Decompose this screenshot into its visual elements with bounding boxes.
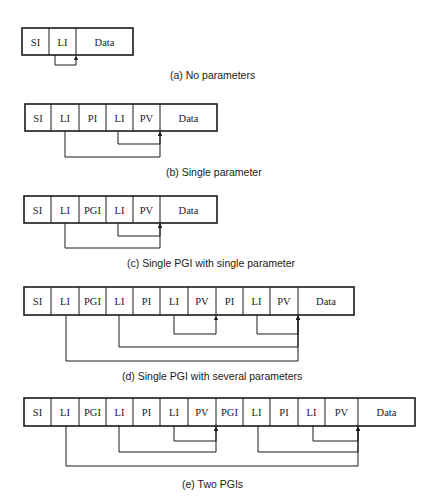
field-pv: PV [335,407,349,418]
field-pgi: PGI [84,407,101,418]
diagram-d: SILIPGILIPILIPVPILIPVData(d) Single PGI … [24,287,354,382]
length-pointer-line [174,426,216,441]
field-pv: PV [140,205,154,216]
field-data: Data [179,205,199,216]
field-li: LI [252,407,262,418]
caption-c: (c) Single PGI with single parameter [127,257,296,269]
field-data: Data [316,296,336,307]
field-pi: PI [88,113,98,124]
field-data: Data [179,113,199,124]
length-pointer-line [119,315,298,347]
field-pgi: PGI [221,407,238,418]
field-pi: PI [279,407,289,418]
field-li: LI [60,113,70,124]
field-si: SI [33,407,43,418]
length-pointer-line [118,131,160,144]
field-li: LI [307,407,317,418]
field-li: LI [58,37,68,48]
field-data: Data [377,407,397,418]
pdu-structure-figure: 266 CHAPTER 6 SILIData(a) No parametersS… [0,0,437,504]
field-pi: PI [142,407,152,418]
field-li: LI [115,407,125,418]
field-li: LI [115,113,125,124]
field-li: LI [60,407,70,418]
length-pointer-line [313,426,358,441]
field-li: LI [169,296,179,307]
field-pv: PV [195,296,209,307]
field-si: SI [33,205,43,216]
length-pointer-line [66,315,298,361]
field-pv: PV [277,296,291,307]
length-pointer-line [55,55,76,65]
frame-box [24,287,354,315]
field-pgi: PGI [84,296,101,307]
length-pointer-line [257,315,298,334]
diagram-c: SILIPGILIPVData(c) Single PGI with singl… [24,196,296,269]
caption-e: (e) Two PGIs [182,478,243,490]
field-pv: PV [195,407,209,418]
diagram-a: SILIData(a) No parameters [22,28,255,81]
length-pointer-line [119,426,216,452]
field-li: LI [169,407,179,418]
field-li: LI [60,296,70,307]
length-pointer-line [66,426,358,466]
length-pointer-line [118,223,160,236]
length-pointer-line [174,315,216,334]
field-pi: PI [225,296,235,307]
page-header: 266 CHAPTER 6 [4,0,80,1]
field-si: SI [31,37,41,48]
frame-box [24,398,415,426]
field-li: LI [115,205,125,216]
field-si: SI [33,113,43,124]
diagram-b: SILIPILIPVData(b) Single parameter [25,104,262,178]
field-pv: PV [140,113,154,124]
field-li: LI [60,205,70,216]
field-pi: PI [142,296,152,307]
caption-d: (d) Single PGI with several parameters [122,370,302,382]
field-pgi: PGI [84,205,101,216]
field-li: LI [115,296,125,307]
caption-b: (b) Single parameter [166,166,262,178]
diagram-e: SILIPGILIPILIPVPGILIPILIPVData(e) Two PG… [24,398,415,490]
field-li: LI [252,296,262,307]
field-data: Data [95,37,115,48]
field-si: SI [33,296,43,307]
caption-a: (a) No parameters [170,69,255,81]
diagram-group: SILIData(a) No parametersSILIPILIPVData(… [22,28,415,490]
length-pointer-line [258,426,358,452]
